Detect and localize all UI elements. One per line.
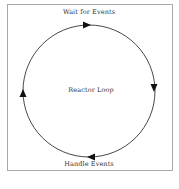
arrow-right-icon [151, 84, 158, 92]
label-handle-events: Handle Events [64, 160, 114, 168]
label-wait-for-events: Wait for Events [63, 8, 115, 16]
arrow-top-icon [83, 22, 91, 29]
arrow-left-icon [20, 89, 27, 97]
label-reactor-loop: Reactor Loop [68, 86, 113, 94]
